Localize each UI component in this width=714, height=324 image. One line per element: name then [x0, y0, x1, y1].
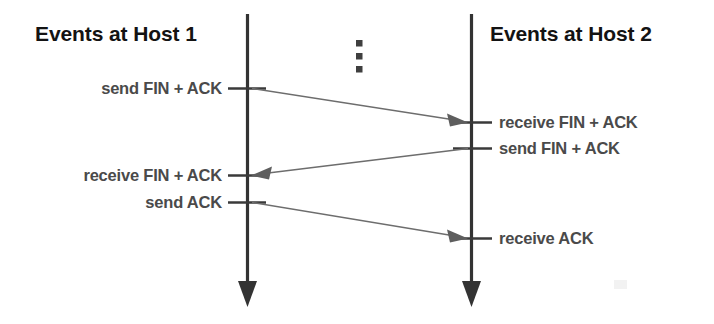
- host1-event-label-send-fin-ack: send FIN + ACK: [101, 79, 222, 97]
- scan-artifact: [614, 280, 627, 289]
- sequence-diagram-graphic: Events at Host 1 Events at Host 2: [0, 0, 714, 324]
- host1-event-label-send-ack: send ACK: [145, 193, 222, 211]
- sequence-diagram-canvas: Events at Host 1 Events at Host 2: [0, 0, 714, 324]
- host2-event-label-receive-ack: receive ACK: [499, 229, 594, 247]
- host2-title: Events at Host 2: [490, 22, 652, 45]
- host1-event-label-receive-fin-ack: receive FIN + ACK: [83, 166, 222, 184]
- host2-event-label-receive-fin-ack: receive FIN + ACK: [499, 113, 638, 131]
- vertical-ellipsis-icon: [356, 40, 363, 73]
- host2-event-label-send-fin-ack: send FIN + ACK: [499, 139, 620, 157]
- host1-title: Events at Host 1: [35, 22, 197, 45]
